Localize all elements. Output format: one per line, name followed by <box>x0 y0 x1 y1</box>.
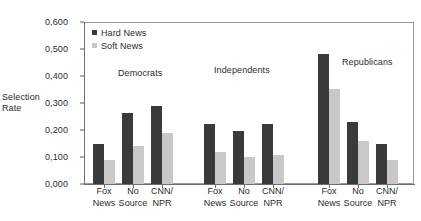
legend-item: Soft News <box>92 40 146 51</box>
bar-hard-news <box>347 122 358 184</box>
y-tick-label: 0,100 <box>45 152 68 162</box>
x-tick-label: CNN/NPR <box>365 186 409 209</box>
bar-soft-news <box>162 133 173 184</box>
y-tick-label: 0,500 <box>45 44 68 54</box>
x-axis-labels: FoxNewsNoSourceCNN/NPRFoxNewsNoSourceCNN… <box>0 186 421 221</box>
bar-hard-news <box>122 113 133 184</box>
bar-soft-news <box>133 146 144 184</box>
bar-soft-news <box>358 141 369 184</box>
y-tick-label: 0,400 <box>45 71 68 81</box>
bar-soft-news <box>104 160 115 184</box>
bar-soft-news <box>215 152 226 184</box>
bar-hard-news <box>204 124 215 184</box>
x-tick-label-line1: CNN/ <box>251 186 295 198</box>
x-tick-label: CNN/NPR <box>140 186 184 209</box>
bar-soft-news <box>273 155 284 184</box>
x-tick-label-line2: NPR <box>251 198 295 210</box>
legend-swatch-icon <box>92 30 97 35</box>
bar-chart: Selection Rate 0,6000,5000,4000,3000,200… <box>0 0 421 221</box>
legend-swatch-icon <box>92 43 97 48</box>
legend-label: Hard News <box>101 28 146 38</box>
bar-hard-news <box>376 144 387 184</box>
bar-soft-news <box>387 160 398 184</box>
y-tick-label: 0,200 <box>45 125 68 135</box>
bar-hard-news <box>262 124 273 184</box>
x-tick-label-line2: NPR <box>140 198 184 210</box>
bar-hard-news <box>151 106 162 184</box>
x-tick-label-line2: NPR <box>365 198 409 210</box>
bar-soft-news <box>244 157 255 184</box>
bar-hard-news <box>233 131 244 184</box>
group-label: Republicans <box>342 57 393 67</box>
legend-item: Hard News <box>92 27 146 38</box>
group-label: Independents <box>214 65 270 75</box>
bar-hard-news <box>93 144 104 184</box>
bar-soft-news <box>329 89 340 184</box>
group-label: Democrats <box>118 68 162 78</box>
x-tick-label-line1: CNN/ <box>365 186 409 198</box>
x-tick-label: CNN/NPR <box>251 186 295 209</box>
chart-legend: Hard NewsSoft News <box>92 27 146 53</box>
bar-hard-news <box>318 54 329 184</box>
x-tick-label-line1: CNN/ <box>140 186 184 198</box>
legend-label: Soft News <box>101 41 143 51</box>
y-tick-label: 0,600 <box>45 17 68 27</box>
y-tick-label: 0,300 <box>45 98 68 108</box>
